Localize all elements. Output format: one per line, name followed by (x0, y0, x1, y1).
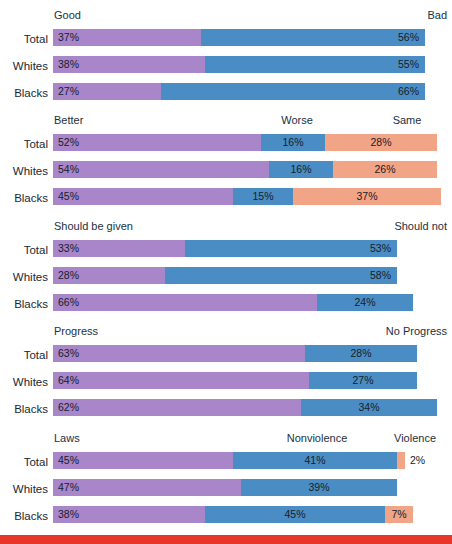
bar-segment-value: 66% (398, 85, 419, 98)
row-category-label: Blacks (0, 190, 48, 207)
stacked-bar-chart: GoodBadTotal37%56%Whites38%55%Blacks27%6… (0, 0, 452, 544)
bar-segment: 54% (53, 161, 269, 178)
bar-segment: 27% (53, 83, 161, 100)
bar-segment: 45% (53, 188, 233, 205)
bar-segment-value: 47% (58, 481, 79, 494)
bar-segment: 28% (53, 267, 165, 284)
bar-segment: 58% (165, 267, 397, 284)
bar-segment-value: 39% (308, 481, 329, 494)
bar-segment-value: 55% (398, 58, 419, 71)
bar-segment: 55% (205, 56, 425, 73)
bar-segment: 34% (301, 399, 437, 416)
bottom-accent-rule (0, 535, 452, 544)
row-category-label: Blacks (0, 508, 48, 525)
stacked-bar-track: 64%27% (53, 372, 452, 389)
chart-row: Blacks62%34% (0, 398, 452, 425)
bar-segment-value: 28% (58, 269, 79, 282)
stacked-bar-track: 54%16%26% (53, 161, 452, 178)
bar-segment-value: 7% (391, 508, 406, 521)
row-category-label: Whites (0, 481, 48, 498)
bar-segment: 26% (333, 161, 437, 178)
stacked-bar-track: 38%45%7% (53, 506, 452, 523)
bar-segment-value: 45% (58, 454, 79, 467)
row-category-label: Blacks (0, 296, 48, 313)
bar-group-header: BetterWorseSame (0, 110, 452, 130)
row-category-label: Blacks (0, 401, 48, 418)
stacked-bar-track: 33%53% (53, 240, 452, 257)
bar-segment-value: 41% (304, 454, 325, 467)
bar-segment-value: 16% (290, 163, 311, 176)
bar-segment-value: 64% (58, 374, 79, 387)
chart-row: Blacks66%24% (0, 293, 452, 320)
bar-segment-value: 2% (410, 454, 425, 467)
bar-segment: 28% (305, 345, 417, 362)
stacked-bar-track: 62%34% (53, 399, 452, 416)
bar-segment: 62% (53, 399, 301, 416)
row-category-label: Whites (0, 374, 48, 391)
bar-segment-value: 28% (350, 347, 371, 360)
bar-group: GoodBadTotal37%56%Whites38%55%Blacks27%6… (0, 5, 452, 25)
column-header-label: Should be given (54, 220, 133, 232)
chart-row: Whites54%16%26% (0, 160, 452, 187)
bar-segment: 37% (53, 29, 201, 46)
stacked-bar-track: 38%55% (53, 56, 452, 73)
bar-segment: 52% (53, 134, 261, 151)
bar-segment-value: 37% (356, 190, 377, 203)
stacked-bar-track: 45%15%37% (53, 188, 452, 205)
chart-row: Whites64%27% (0, 371, 452, 398)
bar-segment-value: 37% (58, 31, 79, 44)
bar-segment: 38% (53, 56, 205, 73)
bar-segment: 37% (293, 188, 441, 205)
bar-group-header: LawsNonviolenceViolence (0, 428, 452, 448)
row-category-label: Blacks (0, 85, 48, 102)
stacked-bar-track: 45%41%2% (53, 452, 452, 469)
bar-segment: 28% (325, 134, 437, 151)
bar-segment-value: 38% (58, 508, 79, 521)
bar-segment: 56% (201, 29, 425, 46)
bar-segment-value: 63% (58, 347, 79, 360)
row-category-label: Total (0, 242, 48, 259)
bar-segment: 41% (233, 452, 397, 469)
bar-segment-value: 33% (58, 242, 79, 255)
column-header-label: Laws (54, 432, 80, 444)
chart-row: Total33%53% (0, 239, 452, 266)
bar-segment-value: 58% (370, 269, 391, 282)
bar-segment: 24% (317, 294, 413, 311)
chart-row: Total37%56% (0, 28, 452, 55)
bar-segment-value: 62% (58, 401, 79, 414)
column-header-label: Violence (394, 432, 436, 444)
bar-group: LawsNonviolenceViolenceTotal45%41%2%Whit… (0, 428, 452, 448)
bar-segment-value: 26% (374, 163, 395, 176)
bar-segment: 64% (53, 372, 309, 389)
bar-group: ProgressNo ProgressTotal63%28%Whites64%2… (0, 321, 452, 341)
chart-row: Whites38%55% (0, 55, 452, 82)
row-category-label: Whites (0, 269, 48, 286)
bar-segment: 33% (53, 240, 185, 257)
chart-row: Whites47%39% (0, 478, 452, 505)
row-category-label: Total (0, 347, 48, 364)
chart-row: Total63%28% (0, 344, 452, 371)
bar-group-header: Should be givenShould not (0, 216, 452, 236)
bar-segment-value: 38% (58, 58, 79, 71)
bar-segment: 7% (385, 506, 413, 523)
bar-segment-value: 66% (58, 296, 79, 309)
bar-group-header: ProgressNo Progress (0, 321, 452, 341)
bar-group-header: GoodBad (0, 5, 452, 25)
bar-segment: 38% (53, 506, 205, 523)
row-category-label: Total (0, 454, 48, 471)
bar-segment: 27% (309, 372, 417, 389)
bar-segment: 2% (397, 452, 405, 469)
bar-segment: 47% (53, 479, 241, 496)
bar-segment: 45% (205, 506, 385, 523)
bar-segment-value: 52% (58, 136, 79, 149)
bar-segment-value: 45% (58, 190, 79, 203)
stacked-bar-track: 66%24% (53, 294, 452, 311)
row-category-label: Whites (0, 163, 48, 180)
chart-row: Blacks27%66% (0, 82, 452, 109)
column-header-label: Nonviolence (287, 432, 348, 444)
bar-segment-value: 16% (282, 136, 303, 149)
bar-segment-value: 28% (370, 136, 391, 149)
bar-segment: 39% (241, 479, 397, 496)
row-category-label: Total (0, 31, 48, 48)
stacked-bar-track: 27%66% (53, 83, 452, 100)
